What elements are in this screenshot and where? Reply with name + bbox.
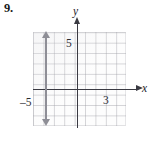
plotted-vertical-line — [45, 37, 47, 121]
y-axis-arrowhead-icon — [74, 17, 80, 24]
plotted-line-arrowhead-up-icon — [42, 31, 50, 38]
x-axis-label: x — [142, 83, 147, 95]
x-axis — [33, 89, 137, 91]
tick-label-x-3: 3 — [103, 95, 109, 107]
y-axis — [77, 23, 79, 128]
exercise-number: 9. — [4, 2, 13, 15]
tick-label-y-5: 5 — [66, 38, 72, 50]
plotted-line-arrowhead-down-icon — [42, 119, 50, 126]
graph-figure: 9. y x 5 3 –5 — [0, 0, 157, 141]
y-axis-label: y — [73, 6, 78, 18]
tick-label-x-negative-5: –5 — [20, 97, 32, 109]
